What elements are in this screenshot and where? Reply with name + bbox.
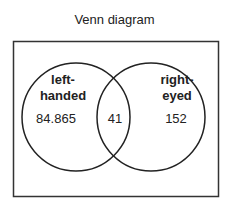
right-only-value: 152 xyxy=(156,111,196,127)
left-handed-label-line2: handed xyxy=(32,88,94,104)
left-only-value: 84.865 xyxy=(26,111,86,127)
right-eyed-label-line1: right- xyxy=(152,72,202,88)
left-handed-label-line1: left- xyxy=(32,72,94,88)
right-eyed-label: right- eyed xyxy=(152,72,202,104)
intersection-value: 41 xyxy=(100,111,130,127)
right-eyed-label-line2: eyed xyxy=(152,88,202,104)
left-handed-label: left- handed xyxy=(32,72,94,104)
